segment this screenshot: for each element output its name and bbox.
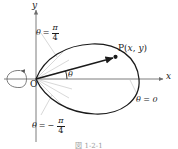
fraction-numerator: π — [52, 24, 59, 32]
equals-sign: = — [43, 29, 50, 37]
theta-positive-label: θ = π 4 — [36, 24, 59, 42]
point-p-close-paren: ) — [144, 43, 148, 53]
polar-curve-figure: y x O θ = π 4 θ = − π 4 θ = 0 θ P(x, y) … — [0, 0, 178, 149]
figure-canvas — [0, 0, 178, 149]
minus-sign: − — [48, 122, 55, 130]
fraction-numerator: π — [57, 117, 64, 125]
y-axis-label: y — [32, 1, 37, 10]
point-p-marker — [113, 55, 117, 59]
equals-sign: = — [39, 122, 46, 130]
angle-theta-label: θ — [68, 71, 73, 79]
point-p-comma: , — [133, 43, 136, 53]
theta-symbol: θ — [36, 29, 41, 37]
theta-symbol: θ — [32, 122, 37, 130]
x-axis-label: x — [166, 72, 171, 81]
theta-zero-label: θ = 0 — [136, 96, 158, 104]
origin-label: O — [30, 80, 37, 89]
theta-negative-label: θ = − π 4 — [32, 117, 65, 135]
fraction-denominator: 4 — [52, 34, 59, 42]
fraction-pi-over-4: π 4 — [52, 24, 59, 42]
point-p-label: P(x, y) — [118, 44, 147, 53]
fraction-pi-over-4: π 4 — [57, 117, 64, 135]
leader-theta-zero — [130, 80, 137, 94]
fraction-denominator: 4 — [57, 127, 64, 135]
angle-arc — [66, 71, 67, 79]
figure-caption: 図 1-2-1 — [0, 140, 178, 149]
